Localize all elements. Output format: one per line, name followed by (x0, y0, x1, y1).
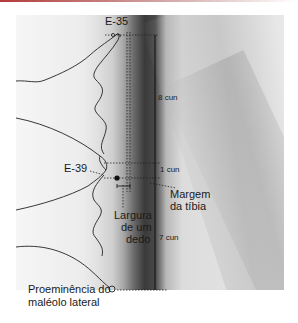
label-malleolus-2: maléolo lateral (28, 296, 100, 308)
label-finger-width-1: Largura (114, 209, 152, 221)
hand-outline-lower (16, 118, 115, 292)
e39-point-marker (114, 175, 119, 180)
label-e35: E-35 (105, 15, 128, 27)
label-malleolus-1: Proeminência do (28, 283, 111, 295)
label-tibia-margin-2: da tíbia (170, 200, 206, 212)
label-finger-width-2: de um (121, 221, 152, 233)
label-upper-segment: 8 cun (158, 94, 178, 103)
label-lower-segment: 7 cun (159, 234, 179, 243)
finger-width-marker (117, 184, 130, 188)
label-e39: E-39 (64, 162, 87, 174)
label-finger-width-3: dedo (126, 233, 150, 245)
label-middle-segment: 1 cun (160, 166, 180, 175)
label-tibia-margin-1: Margem (170, 188, 210, 200)
annotation-overlay (0, 0, 298, 323)
